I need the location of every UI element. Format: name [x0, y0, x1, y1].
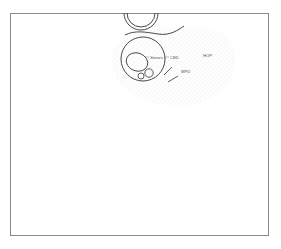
label-hop: HOP [203, 53, 212, 58]
vessel-double-circle [124, 13, 158, 30]
label-mpd: MPD [181, 69, 190, 74]
anatomy-diagram: Stones CBD HOP MPD [0, 0, 281, 249]
label-stones: Stones [150, 55, 163, 60]
label-cbd: CBD [170, 55, 179, 60]
pancreas-head-stipple [112, 27, 235, 106]
